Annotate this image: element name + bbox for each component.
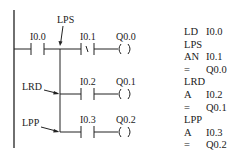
lps-label: LPS: [57, 14, 74, 25]
operand: I0.3: [206, 127, 223, 140]
lrd-arrowhead: [53, 91, 59, 95]
opcode: =: [184, 139, 206, 152]
coil-q01-left: [119, 89, 121, 99]
instruction-row: LRD: [184, 76, 227, 89]
instruction-row: =Q0.0: [184, 64, 227, 77]
instruction-row: ANI0.1: [184, 51, 227, 64]
nc-slash: [86, 46, 88, 52]
instruction-row: AI0.3: [184, 127, 227, 140]
lrd-label: LRD: [22, 81, 42, 92]
opcode: A: [184, 89, 206, 102]
operand: I0.1: [206, 51, 223, 64]
opcode: =: [184, 102, 206, 115]
coil-label: Q0.0: [116, 31, 136, 42]
operand: Q0.2: [206, 139, 227, 152]
operand: I0.2: [206, 89, 223, 102]
coil-q02-right: [128, 127, 130, 137]
coil-label: Q0.2: [116, 114, 136, 125]
coil-q00-left: [119, 44, 121, 54]
contact-label: I0.1: [80, 31, 96, 42]
opcode: LPS: [184, 39, 206, 52]
contact-label: I0.0: [30, 31, 46, 42]
instruction-row: =Q0.1: [184, 102, 227, 115]
contact-label: I0.3: [80, 114, 96, 125]
coil-q02-left: [119, 127, 121, 137]
coil-q01-right: [128, 89, 130, 99]
lpp-arrowhead: [53, 129, 59, 133]
instruction-row: LPS: [184, 39, 227, 52]
opcode: A: [184, 127, 206, 140]
operand: Q0.0: [206, 64, 227, 77]
opcode: =: [184, 64, 206, 77]
instruction-row: LDI0.0: [184, 26, 227, 39]
opcode: LRD: [184, 76, 206, 89]
lps-arrowhead: [59, 41, 63, 46]
opcode: LD: [184, 26, 206, 39]
instruction-list: LDI0.0 LPS ANI0.1 =Q0.0 LRD AI0.2 =Q0.1 …: [184, 26, 227, 152]
lpp-label: LPP: [22, 117, 40, 128]
instruction-row: AI0.2: [184, 89, 227, 102]
coil-q00-right: [128, 44, 130, 54]
coil-label: Q0.1: [116, 76, 136, 87]
operand: Q0.1: [206, 102, 227, 115]
operand: I0.0: [206, 26, 223, 39]
lps-arrow: [61, 26, 64, 44]
opcode: LPP: [184, 114, 206, 127]
instruction-row: =Q0.2: [184, 139, 227, 152]
instruction-row: LPP: [184, 114, 227, 127]
contact-label: I0.2: [80, 76, 96, 87]
opcode: AN: [184, 51, 206, 64]
